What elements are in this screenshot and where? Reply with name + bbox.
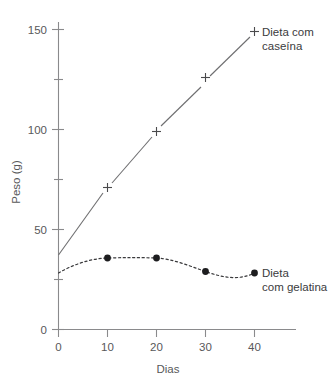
line-chart-svg: 0 50 100 150 Peso (g) 0 10 20 30 40 Dias (0, 0, 336, 383)
x-tick-label-30: 30 (199, 341, 212, 353)
caseina-segment-20-30 (161, 87, 201, 126)
x-tick-label-20: 20 (150, 341, 163, 353)
series-gelatina (59, 255, 258, 278)
legend-caseina: Dieta com caseína (262, 26, 314, 52)
y-axis-title: Peso (g) (10, 160, 22, 204)
caseina-segment-10-20 (112, 137, 152, 183)
series-caseina (59, 27, 260, 255)
legend-caseina-line2: caseína (262, 40, 303, 52)
gelatina-marker-30 (202, 268, 209, 275)
legend-gelatina: Dieta com gelatina (262, 267, 328, 293)
x-tick-label-10: 10 (101, 341, 114, 353)
legend-gelatina-line1: Dieta (262, 267, 289, 279)
y-tick-label-50: 50 (34, 224, 47, 236)
x-tick-label-0: 0 (55, 341, 61, 353)
x-axis-ticks (59, 330, 255, 338)
x-axis-title: Dias (156, 363, 179, 375)
y-axis-tick-labels: 0 50 100 150 (28, 24, 47, 336)
y-tick-label-150: 150 (28, 24, 47, 36)
legend-gelatina-line2: com gelatina (262, 281, 328, 293)
y-tick-label-0: 0 (41, 324, 47, 336)
chart-figure: 0 50 100 150 Peso (g) 0 10 20 30 40 Dias (0, 0, 336, 383)
gelatina-marker-20 (153, 255, 160, 262)
gelatina-marker-10 (104, 255, 111, 262)
x-axis-tick-labels: 0 10 20 30 40 (55, 341, 261, 353)
caseina-segment-30-40 (210, 37, 250, 76)
gelatina-marker-40 (251, 270, 258, 277)
axis-group (59, 22, 297, 330)
x-tick-label-40: 40 (248, 341, 261, 353)
gelatina-markers (104, 255, 258, 277)
legend-caseina-line1: Dieta com (262, 26, 314, 38)
y-tick-label-100: 100 (28, 124, 47, 136)
caseina-segment-0-10 (59, 193, 104, 255)
